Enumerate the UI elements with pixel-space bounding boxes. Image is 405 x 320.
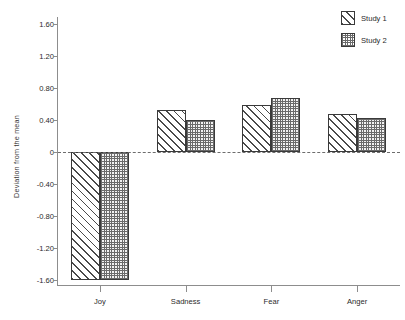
- bar-sadness-study-2: [186, 120, 215, 152]
- x-axis-tick-mark: [186, 286, 187, 292]
- y-axis-tick-label: 0.40: [8, 116, 54, 125]
- x-axis-category-label: Joy: [60, 297, 140, 306]
- y-axis-tick-mark: [53, 56, 58, 57]
- x-axis-tick-mark: [271, 286, 272, 292]
- legend-item-study-2[interactable]: Study 2: [341, 33, 405, 47]
- x-axis-category-label: Fear: [231, 297, 311, 306]
- bar-fear-study-1: [242, 105, 271, 152]
- y-axis-tick-label: 0: [8, 148, 54, 157]
- x-axis-tick-mark: [100, 286, 101, 292]
- legend: Study 1 Study 2: [341, 11, 405, 55]
- bar-joy-study-1: [71, 152, 100, 280]
- y-axis-tick-mark: [53, 280, 58, 281]
- y-axis-tick-label: 1.20: [8, 52, 54, 61]
- bar-anger-study-2: [357, 118, 386, 152]
- x-axis-tick-mark: [357, 286, 358, 292]
- y-axis-tick-label: 1.60: [8, 20, 54, 29]
- legend-label-study-1: Study 1: [361, 14, 387, 23]
- zero-baseline: [58, 152, 400, 153]
- legend-swatch-checkered-hatch-icon: [341, 33, 355, 47]
- legend-label-study-2: Study 2: [361, 36, 387, 45]
- y-axis-tick-label: -1.20: [8, 244, 54, 253]
- y-axis-tick-label: -0.40: [8, 180, 54, 189]
- bar-sadness-study-1: [157, 110, 186, 152]
- bar-chart: Deviation from the mean 1.601.200.800.40…: [0, 0, 405, 320]
- bar-fear-study-2: [271, 98, 300, 152]
- y-axis-tick-label: -0.80: [8, 212, 54, 221]
- bar-joy-study-2: [100, 152, 129, 280]
- legend-swatch-diagonal-hatch-icon: [341, 11, 355, 25]
- y-axis-tick-mark: [53, 184, 58, 185]
- legend-item-study-1[interactable]: Study 1: [341, 11, 405, 25]
- y-axis-tick-mark: [53, 216, 58, 217]
- x-axis-category-label: Sadness: [146, 297, 226, 306]
- y-axis-tick-mark: [53, 24, 58, 25]
- bar-anger-study-1: [328, 114, 357, 152]
- y-axis-line: [57, 17, 58, 285]
- x-axis-line: [57, 285, 400, 286]
- y-axis-tick-label: -1.60: [8, 276, 54, 285]
- y-axis-tick-label: 0.80: [8, 84, 54, 93]
- y-axis-tick-mark: [53, 248, 58, 249]
- x-axis-category-label: Anger: [317, 297, 397, 306]
- y-axis-tick-mark: [53, 88, 58, 89]
- y-axis-tick-mark: [53, 120, 58, 121]
